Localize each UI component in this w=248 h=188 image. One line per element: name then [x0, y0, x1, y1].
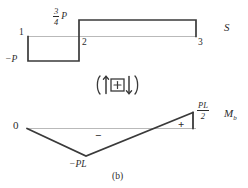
figure-caption: (b) — [112, 172, 123, 182]
moment-origin-label: 0 — [13, 120, 19, 131]
shear-bottom-value-label: −P — [5, 55, 17, 65]
fraction-pl-over-two: PL 2 — [197, 101, 209, 121]
moment-axis-label: Mb — [224, 108, 237, 122]
moment-curve — [27, 113, 193, 157]
shear-node-label-2: 2 — [82, 38, 87, 48]
shear-axis-label: S — [224, 22, 230, 33]
moment-axis-label-subscript: b — [233, 114, 237, 122]
shear-top-value-label: 3 4 P — [53, 7, 67, 27]
moment-minimum-label: −PL — [69, 160, 87, 170]
moment-negative-sign: − — [95, 130, 101, 141]
shear-node-label-1: 1 — [19, 28, 24, 38]
engineering-diagram-figure: 3 4 P 1 2 3 −P S 0 − + −PL PL 2 Mb (b) — [0, 0, 248, 188]
moment-positive-sign: + — [178, 119, 184, 130]
shear-top-value-suffix: P — [61, 12, 67, 22]
shear-node-label-3: 3 — [198, 38, 203, 48]
fraction-three-quarters: 3 4 — [53, 7, 59, 27]
shear-sign-convention-symbol — [97, 76, 137, 94]
diagram-canvas — [0, 0, 248, 188]
moment-maximum-label: PL 2 — [197, 101, 209, 121]
moment-axis-label-main: M — [224, 107, 233, 119]
